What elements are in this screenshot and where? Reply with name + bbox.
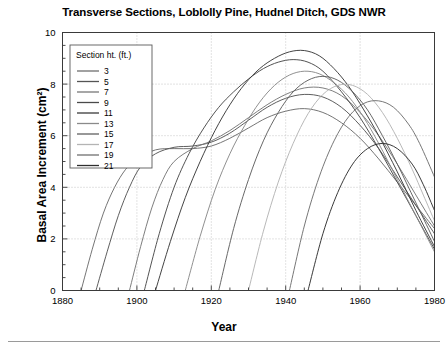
legend-item-label: 11	[104, 108, 113, 118]
y-tick-label: 0	[50, 285, 55, 296]
legend-item-label: 13	[104, 119, 114, 129]
y-axis-label: Basal Area Increment (cm²)	[35, 35, 49, 295]
legend-title: Section ht. (ft.)	[76, 50, 131, 60]
legend-item-label: 19	[104, 150, 114, 160]
x-tick-label: 1980	[424, 295, 445, 306]
x-tick-label: 1880	[52, 295, 73, 306]
plot-area: 1880190019201940196019800246810 Section …	[0, 0, 448, 347]
legend-item-label: 15	[104, 129, 114, 139]
legend-item-label: 9	[104, 98, 109, 108]
footer-divider	[8, 341, 440, 342]
series-line-9	[144, 60, 434, 291]
legend-item-label: 3	[104, 66, 109, 76]
legend-item-label: 21	[104, 161, 114, 171]
series-line-21	[308, 143, 434, 290]
legend-item-label: 7	[104, 87, 109, 97]
y-tick-label: 4	[50, 182, 55, 193]
y-tick-label: 2	[50, 233, 55, 244]
chart-figure: Transverse Sections, Loblolly Pine, Hudn…	[0, 0, 448, 347]
chart-title: Transverse Sections, Loblolly Pine, Hudn…	[0, 6, 448, 18]
x-tick-label: 1900	[126, 295, 147, 306]
x-axis-label: Year	[0, 320, 448, 334]
x-tick-label: 1940	[275, 295, 296, 306]
y-tick-label: 6	[50, 130, 55, 141]
y-tick-label: 8	[50, 79, 55, 90]
series-line-7	[129, 87, 434, 290]
chart-legend[interactable]: Section ht. (ft.)3579111315171921	[70, 45, 152, 171]
x-tick-label: 1960	[350, 295, 371, 306]
x-tick-label: 1920	[201, 295, 222, 306]
legend-item-label: 5	[104, 77, 109, 87]
series-line-15	[219, 76, 435, 290]
legend-item-label: 17	[104, 140, 114, 150]
